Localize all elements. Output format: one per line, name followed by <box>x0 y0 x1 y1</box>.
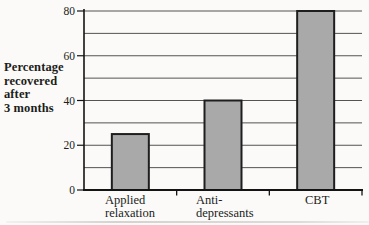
bar <box>205 101 242 191</box>
bar <box>112 134 149 190</box>
x-axis-category-label: CBT <box>305 194 329 207</box>
y-tick-label: 80 <box>64 5 76 17</box>
chart-plot-area: 020406080 <box>0 0 369 225</box>
y-tick-label: 20 <box>64 139 76 151</box>
x-axis-category-label: Applied relaxation <box>105 194 155 220</box>
bar-chart-figure: Percentage recovered after 3 months 0204… <box>0 0 369 225</box>
x-axis-category-label: Anti-depressants <box>196 194 254 220</box>
y-tick-label: 0 <box>69 184 75 196</box>
y-tick-label: 60 <box>64 50 76 62</box>
bar <box>297 11 334 190</box>
scan-artifact-line <box>6 221 369 223</box>
y-tick-label: 40 <box>64 95 76 107</box>
